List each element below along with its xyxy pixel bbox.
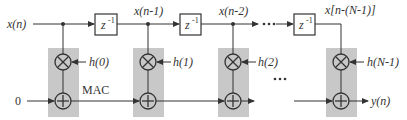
tap-label-2: x(n-2)	[218, 4, 248, 18]
output-label: y(n)	[370, 94, 390, 108]
coef-label-1: h(1)	[173, 55, 193, 69]
mac-label: MAC	[82, 83, 109, 97]
svg-text:z: z	[100, 18, 106, 32]
svg-text:-1: -1	[306, 16, 313, 25]
coef-label-2: h(2)	[258, 55, 278, 69]
delay-box-3: z -1	[294, 14, 315, 35]
svg-text:z: z	[184, 18, 190, 32]
svg-text:z: z	[298, 18, 304, 32]
delay-box-1: z -1	[95, 14, 117, 35]
tap-label-1: x(n-1)	[133, 4, 163, 18]
fir-diagram: z -1 z -1 z -1	[0, 0, 407, 120]
tap-label-3: x[n-(N-1)]	[324, 3, 376, 17]
svg-text:-1: -1	[192, 16, 199, 25]
ellipsis-top	[263, 23, 276, 26]
ellipsis-middle	[274, 78, 287, 81]
coef-label-0: h(0)	[89, 55, 109, 69]
input-label: x(n)	[6, 17, 26, 31]
svg-text:-1: -1	[108, 16, 115, 25]
delay-box-2: z -1	[180, 14, 201, 35]
coef-label-3: h(N-1)	[367, 55, 399, 69]
initial-value-label: 0	[15, 94, 21, 108]
